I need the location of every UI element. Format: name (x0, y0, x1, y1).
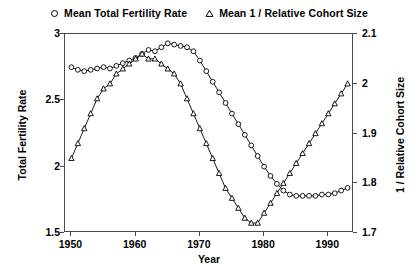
circle-marker (146, 48, 151, 53)
circle-marker (204, 69, 209, 74)
circle-marker (345, 185, 350, 190)
axis-tickmark (327, 232, 328, 236)
y-axis-right-tick-label: 1.8 (362, 176, 377, 188)
x-axis-tick-label: 1980 (251, 238, 274, 250)
triangle-marker (172, 71, 177, 76)
y-axis-left-tick-label: 1.5 (45, 226, 60, 238)
triangle-marker (114, 71, 119, 76)
chart-figure: Mean Total Fertility Rate Mean 1 / Relat… (0, 0, 418, 270)
axis-tickmark (353, 33, 357, 34)
series-line (71, 54, 347, 223)
circle-marker (101, 65, 106, 70)
y-axis-right-tick-label: 1.9 (362, 127, 377, 139)
axis-tickmark (353, 83, 357, 84)
x-axis-tick-label: 1950 (59, 238, 82, 250)
triangle-marker (345, 81, 350, 86)
legend-label-fertility: Mean Total Fertility Rate (64, 7, 187, 19)
axis-tickmark (199, 232, 200, 236)
circle-marker (300, 193, 305, 198)
circle-marker (95, 66, 100, 71)
plot-area (64, 33, 353, 232)
triangle-marker-icon (205, 9, 214, 18)
circle-marker (165, 41, 170, 46)
circle-marker (313, 193, 318, 198)
triangle-marker (69, 155, 74, 160)
circle-marker (326, 192, 331, 197)
circle-marker (230, 111, 235, 116)
circle-marker (210, 79, 215, 84)
y-axis-right-title: 1 / Relative Cohort Size (394, 77, 406, 193)
legend-label-cohort: Mean 1 / Relative Cohort Size (219, 7, 368, 19)
axis-tickmark (263, 232, 264, 236)
triangle-marker (216, 170, 221, 175)
axis-tickmark (60, 99, 64, 100)
y-axis-left-tick-label: 2.5 (45, 93, 60, 105)
chart-legend: Mean Total Fertility Rate Mean 1 / Relat… (0, 4, 418, 22)
circle-marker (82, 69, 87, 74)
y-axis-right-tick-label: 2.1 (362, 27, 377, 39)
circle-marker (69, 65, 74, 70)
y-axis-right-tick-label: 1.7 (362, 226, 377, 238)
circle-marker (108, 66, 113, 71)
data-series-layer (65, 34, 354, 233)
circle-marker (185, 45, 190, 50)
legend-entry-fertility: Mean Total Fertility Rate (50, 7, 187, 19)
x-axis-title: Year (198, 253, 220, 265)
circle-marker (281, 188, 286, 193)
circle-marker (223, 101, 228, 106)
circle-marker (287, 192, 292, 197)
triangle-marker (197, 126, 202, 131)
triangle-marker (204, 141, 209, 146)
axis-tickmark (60, 166, 64, 167)
axis-tickmark (353, 232, 357, 233)
axis-tickmark (60, 232, 64, 233)
triangle-marker (223, 185, 228, 190)
circle-marker (217, 90, 222, 95)
circle-marker (191, 49, 196, 54)
circle-marker (255, 154, 260, 159)
circle-marker (242, 132, 247, 137)
x-axis-tick-label: 1970 (187, 238, 210, 250)
circle-marker (307, 193, 312, 198)
triangle-marker (82, 126, 87, 131)
axis-tickmark (135, 232, 136, 236)
y-axis-right-tick-label: 2 (362, 77, 368, 89)
circle-marker (153, 49, 158, 54)
circle-marker (275, 182, 280, 187)
axis-tickmark (70, 232, 71, 236)
y-axis-left-title: Total Fertility Rate (16, 90, 28, 181)
circle-marker (294, 193, 299, 198)
circle-marker (88, 67, 93, 72)
triangle-marker (191, 111, 196, 116)
circle-marker (172, 42, 177, 47)
circle-marker (236, 122, 241, 127)
legend-entry-cohort: Mean 1 / Relative Cohort Size (205, 7, 368, 19)
circle-marker (178, 44, 183, 49)
circle-marker-icon (50, 9, 59, 18)
circle-marker (339, 188, 344, 193)
circle-marker (120, 61, 125, 66)
triangle-marker (101, 86, 106, 91)
circle-marker (75, 67, 80, 72)
circle-marker (114, 63, 119, 68)
triangle-marker (159, 61, 164, 66)
axis-tickmark (353, 182, 357, 183)
x-axis-tick-label: 1960 (123, 238, 146, 250)
circle-marker (262, 164, 267, 169)
triangle-marker (120, 66, 125, 71)
series-line (71, 43, 347, 196)
x-axis-tick-label: 1990 (316, 238, 339, 250)
triangle-marker (88, 111, 93, 116)
circle-marker (319, 192, 324, 197)
triangle-marker (165, 66, 170, 71)
circle-marker (332, 191, 337, 196)
triangle-marker (184, 96, 189, 101)
triangle-marker (75, 141, 80, 146)
circle-marker (249, 143, 254, 148)
circle-marker (197, 58, 202, 63)
triangle-marker (210, 155, 215, 160)
circle-marker (159, 45, 164, 50)
circle-marker (268, 174, 273, 179)
axis-tickmark (353, 133, 357, 134)
axis-tickmark (60, 33, 64, 34)
